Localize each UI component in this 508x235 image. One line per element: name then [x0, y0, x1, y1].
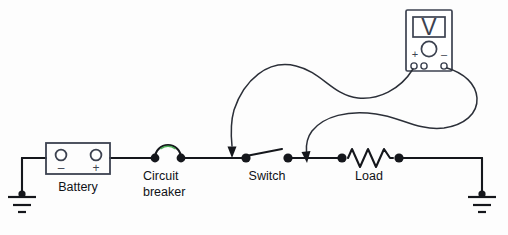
switch-lever[interactable]: [246, 149, 282, 156]
switch-node-right: [283, 153, 292, 162]
positive-lead-arrowhead: [228, 147, 237, 159]
voltmeter-display-value: V: [421, 14, 437, 40]
switch-label: Switch: [249, 169, 286, 183]
circuit-breaker-node-right: [177, 154, 186, 163]
voltmeter-jack-common[interactable]: [421, 63, 427, 69]
battery-positive-sign: +: [92, 161, 99, 175]
voltmeter-jack-negative[interactable]: [441, 63, 447, 69]
positive-test-lead: [228, 65, 414, 158]
circuit-breaker-node-left: [151, 154, 160, 163]
switch-symbol[interactable]: [241, 149, 292, 163]
battery-label: Battery: [58, 180, 98, 194]
voltmeter-negative-sign: –: [441, 48, 448, 60]
circuit-breaker-symbol: [151, 145, 186, 162]
load-node-right: [394, 153, 403, 162]
battery-negative-terminal: [56, 150, 67, 161]
voltmeter-jack-positive[interactable]: [411, 63, 417, 69]
battery-symbol: – +: [46, 143, 110, 175]
battery-negative-sign: –: [58, 161, 65, 175]
ground-symbol-left: [8, 190, 36, 212]
load-resistor-zigzag: [348, 149, 393, 167]
negative-lead-wire: [306, 68, 477, 152]
circuit-diagram-svg: – + Battery Circuit breaker Switch Load: [0, 0, 508, 235]
ground-symbol-right: [468, 190, 496, 212]
circuit-breaker-label-line1: Circuit: [143, 169, 179, 183]
voltmeter-positive-sign: +: [412, 48, 418, 60]
circuit-diagram-canvas: – + Battery Circuit breaker Switch Load: [0, 0, 508, 235]
load-label: Load: [355, 169, 383, 183]
load-symbol: [337, 149, 403, 167]
voltmeter-dial[interactable]: [421, 41, 436, 56]
negative-test-lead: [302, 68, 478, 163]
voltmeter[interactable]: V + –: [406, 10, 452, 71]
circuit-breaker-arc-highlight: [161, 147, 175, 149]
load-node-left: [337, 153, 346, 162]
circuit-breaker-label-line2: breaker: [143, 185, 185, 199]
positive-lead-wire: [231, 65, 413, 146]
switch-node-left: [241, 153, 250, 162]
battery-positive-terminal: [91, 150, 102, 161]
